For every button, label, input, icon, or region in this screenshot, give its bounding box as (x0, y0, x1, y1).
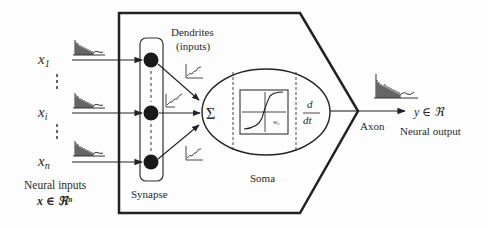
output-spike-train (374, 74, 418, 98)
dendrite-potential-icon-1 (186, 64, 203, 78)
soma-label: Soma (250, 172, 275, 184)
dendrite-potential-icon-n (186, 146, 203, 160)
synapse-node-n (144, 155, 159, 170)
input-label-x1: x1 (37, 51, 50, 69)
input-spike-train-n (73, 141, 105, 156)
dendrite-potential-icon-i (166, 94, 182, 107)
neuron-diagram: x1 xi xn Neural inputs x ∈ ℜⁿ Dendrites … (0, 0, 488, 228)
synapse-node-1 (144, 53, 159, 68)
derivative-numerator: d (307, 98, 313, 110)
dendrites-inputs-label: (inputs) (176, 40, 211, 53)
derivative-denominator: dt (303, 114, 313, 126)
input-spike-train-1 (73, 40, 105, 55)
neural-output-caption: Neural output (400, 125, 461, 137)
neural-inputs-domain: x ∈ ℜⁿ (36, 194, 73, 208)
input-label-xi: xi (37, 104, 48, 122)
output-label: y ∈ ℜ (413, 105, 445, 119)
threshold-w0-label: w₀ (273, 118, 280, 125)
dendrite-arrow-1 (158, 64, 199, 100)
input-label-xn: xn (37, 153, 50, 171)
synapse-node-i (144, 106, 159, 121)
input-spike-train-i (73, 93, 105, 108)
summation-symbol: Σ (206, 105, 215, 122)
neural-inputs-caption: Neural inputs (24, 179, 87, 192)
synapse-label: Synapse (131, 188, 168, 200)
axon-label: Axon (360, 120, 385, 132)
dendrites-label: Dendrites (171, 26, 214, 38)
